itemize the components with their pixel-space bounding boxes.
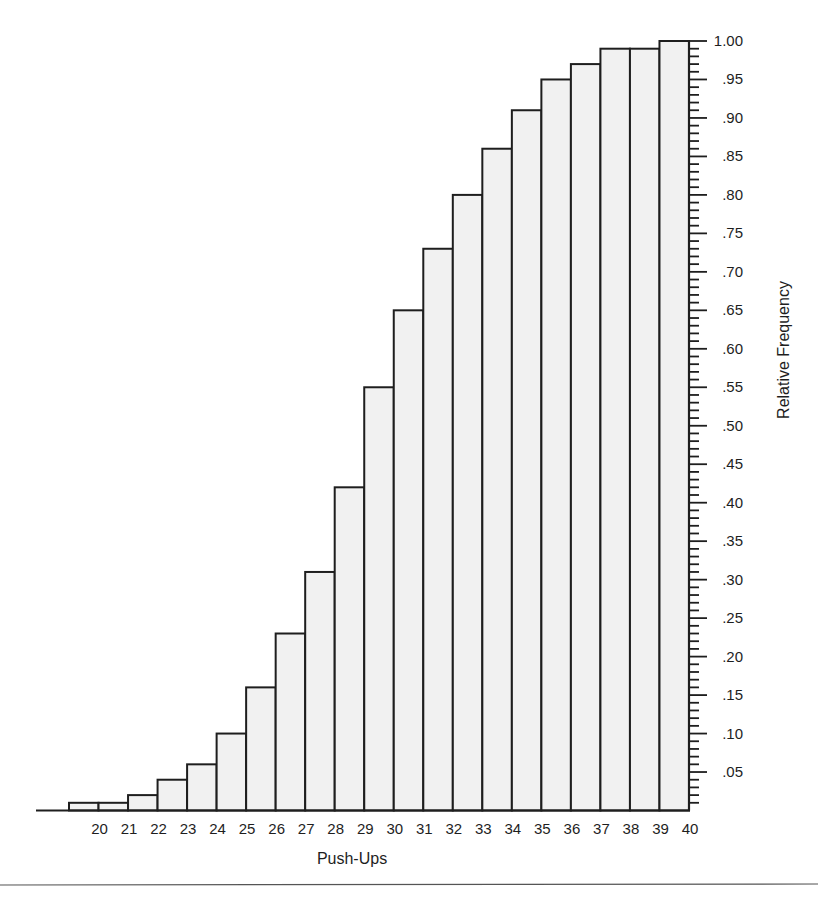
x-tick-label: 26 xyxy=(268,820,285,837)
histogram-bar: 25-26: 0.16 xyxy=(246,687,276,810)
histogram-bar: 24-25: 0.1 xyxy=(217,734,247,811)
x-tick-label: 30 xyxy=(386,820,403,837)
histogram-bar: 37-38: 0.99 xyxy=(600,49,630,811)
y-tick-label: .50 xyxy=(722,417,743,434)
histogram-bar: 29-30: 0.55 xyxy=(364,387,394,810)
x-tick-label: 31 xyxy=(416,820,433,837)
y-tick-label: .30 xyxy=(722,571,743,588)
y-tick-label: .70 xyxy=(722,263,743,280)
y-tick-label: .15 xyxy=(722,686,743,703)
x-tick-label: 36 xyxy=(564,820,581,837)
y-tick-label: .90 xyxy=(722,109,743,126)
y-tick-label: .60 xyxy=(722,340,743,357)
x-tick-label: 39 xyxy=(652,820,669,837)
y-tick-label: .75 xyxy=(722,224,743,241)
x-tick-label: 29 xyxy=(357,820,374,837)
x-tick-label: 21 xyxy=(121,820,138,837)
x-tick-label: 40 xyxy=(682,820,699,837)
y-tick-label: .05 xyxy=(722,763,743,780)
y-tick-label: .65 xyxy=(722,301,743,318)
y-tick-label: .45 xyxy=(722,455,743,472)
y-axis-title: Relative Frequency xyxy=(775,281,792,419)
x-tick-label: 24 xyxy=(209,820,226,837)
y-tick-label: .20 xyxy=(722,648,743,665)
x-tick-label: 28 xyxy=(327,820,344,837)
histogram-bar: 36-37: 0.97 xyxy=(571,64,601,810)
page-divider-rule xyxy=(0,884,818,885)
x-tick-label: 34 xyxy=(505,820,522,837)
cumulative-histogram-chart: 19-20: 0.0120-21: 0.0121-22: 0.0222-23: … xyxy=(0,0,818,900)
histogram-bar: 31-32: 0.73 xyxy=(423,249,453,811)
x-tick-label: 37 xyxy=(593,820,610,837)
y-tick-label: .25 xyxy=(722,609,743,626)
histogram-bar: 26-27: 0.23 xyxy=(276,634,306,811)
histogram-bar: 35-36: 0.95 xyxy=(541,79,571,810)
x-tick-label: 22 xyxy=(150,820,167,837)
x-tick-label: 27 xyxy=(298,820,315,837)
y-tick-label: .80 xyxy=(722,186,743,203)
histogram-bar: 21-22: 0.02 xyxy=(128,795,158,810)
y-tick-label: .40 xyxy=(722,494,743,511)
y-tick-label: .85 xyxy=(722,147,743,164)
histogram-bar: 39-40: 1 xyxy=(659,41,689,811)
bars-group: 19-20: 0.0120-21: 0.0121-22: 0.0222-23: … xyxy=(69,41,689,811)
histogram-bar: 33-34: 0.86 xyxy=(482,149,512,811)
histogram-bar: 34-35: 0.91 xyxy=(512,110,542,810)
histogram-bar: 19-20: 0.01 xyxy=(69,803,99,811)
x-tick-label: 23 xyxy=(180,820,197,837)
histogram-bar: 22-23: 0.04 xyxy=(158,780,188,811)
y-tick-label: 1.00 xyxy=(714,32,743,49)
histogram-bar: 27-28: 0.31 xyxy=(305,572,335,811)
x-axis-tick-labels: 2021222324252627282930313233343536373839… xyxy=(91,820,698,837)
histogram-bar: 32-33: 0.8 xyxy=(453,195,483,811)
y-tick-label: .35 xyxy=(722,532,743,549)
histogram-bar: 30-31: 0.65 xyxy=(394,310,424,810)
y-tick-label: .55 xyxy=(722,378,743,395)
x-tick-label: 33 xyxy=(475,820,492,837)
y-tick-label: .10 xyxy=(722,725,743,742)
x-tick-label: 20 xyxy=(91,820,108,837)
y-tick-label: .95 xyxy=(722,70,743,87)
x-tick-label: 32 xyxy=(445,820,462,837)
histogram-bar: 28-29: 0.42 xyxy=(335,487,365,810)
histogram-bar: 38-39: 0.99 xyxy=(630,49,660,811)
histogram-bar: 20-21: 0.01 xyxy=(99,803,129,811)
x-axis-title: Push-Ups xyxy=(317,850,387,867)
x-tick-label: 35 xyxy=(534,820,551,837)
histogram-bar: 23-24: 0.06 xyxy=(187,764,217,810)
x-tick-label: 38 xyxy=(623,820,640,837)
y-axis-ticks: .05.10.15.20.25.30.35.40.45.50.55.60.65.… xyxy=(689,32,743,803)
x-tick-label: 25 xyxy=(239,820,256,837)
